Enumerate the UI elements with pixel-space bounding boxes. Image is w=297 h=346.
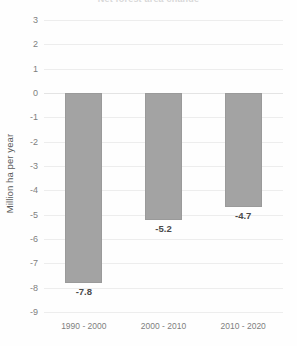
bar-value-label: -5.2 bbox=[155, 224, 171, 234]
gridline bbox=[44, 312, 283, 313]
y-axis-title: Million ha per year bbox=[2, 0, 18, 346]
x-category-label: 1990 - 2000 bbox=[61, 322, 106, 331]
y-tick-label: 2 bbox=[33, 40, 38, 49]
x-category-label: 2000 - 2010 bbox=[141, 322, 186, 331]
y-tick-label: -3 bbox=[30, 162, 38, 171]
y-tick-label: 0 bbox=[33, 89, 38, 98]
y-tick-label: 3 bbox=[33, 16, 38, 25]
y-axis-title-label: Million ha per year bbox=[5, 133, 16, 213]
y-tick-label: -8 bbox=[30, 283, 38, 292]
gridline bbox=[44, 44, 283, 45]
bar bbox=[145, 93, 182, 220]
y-tick-label: 1 bbox=[33, 64, 38, 73]
bar bbox=[225, 93, 262, 207]
y-tick-label: -4 bbox=[30, 186, 38, 195]
bar-value-label: -7.8 bbox=[76, 287, 92, 297]
y-tick-label: -1 bbox=[30, 113, 38, 122]
gridline bbox=[44, 69, 283, 70]
y-tick-label: -2 bbox=[30, 137, 38, 146]
bar bbox=[65, 93, 102, 283]
bar-chart: Net forest area change Million ha per ye… bbox=[0, 0, 297, 346]
y-tick-label: -7 bbox=[30, 259, 38, 268]
chart-title-remnant: Net forest area change bbox=[0, 0, 297, 2]
bar-value-label: -4.7 bbox=[235, 211, 251, 221]
y-tick-label: -5 bbox=[30, 210, 38, 219]
y-tick-label: -9 bbox=[30, 308, 38, 317]
y-tick-label: -6 bbox=[30, 235, 38, 244]
plot-area: 3210-1-2-3-4-5-6-7-8-9 -7.8-5.2-4.7 1990… bbox=[44, 20, 283, 312]
gridline bbox=[44, 20, 283, 21]
x-category-label: 2010 - 2020 bbox=[220, 322, 265, 331]
